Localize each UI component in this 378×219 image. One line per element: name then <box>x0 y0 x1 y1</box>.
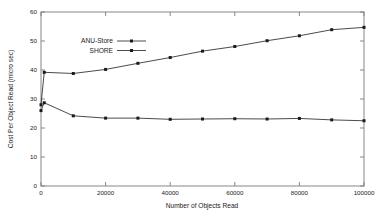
y-tick-label: 60 <box>30 8 37 15</box>
data-point <box>72 114 75 117</box>
data-point <box>233 45 236 48</box>
y-tick-label: 0 <box>34 182 38 189</box>
line-chart-plot: 0102030405060 02000040000600008000010000… <box>0 0 378 219</box>
series-anu-store <box>40 101 366 122</box>
data-point <box>298 117 301 120</box>
data-point <box>298 34 301 37</box>
x-axis-tick-labels: 020000400006000080000100000 <box>39 189 375 196</box>
y-axis-title: Cost Per Object Read (micro sec) <box>7 50 15 149</box>
data-point <box>40 103 43 106</box>
y-tick-label: 30 <box>30 95 37 102</box>
y-tick-label: 40 <box>30 66 37 73</box>
data-point <box>266 39 269 42</box>
data-point <box>43 101 46 104</box>
legend-sample-marker <box>130 40 133 43</box>
legend-label-anu-store: ANU-Store <box>81 37 113 44</box>
data-point <box>43 71 46 74</box>
data-point <box>363 26 366 29</box>
chart-container: 0102030405060 02000040000600008000010000… <box>0 0 378 219</box>
legend-sample-marker <box>130 49 133 52</box>
y-tick-label: 50 <box>30 37 37 44</box>
x-tick-label: 40000 <box>162 189 180 196</box>
x-axis-title: Number of Objects Read <box>166 202 239 210</box>
legend-label-shore: SHORE <box>90 47 114 54</box>
x-tick-label: 60000 <box>226 189 244 196</box>
data-point <box>136 62 139 65</box>
y-tick-label: 10 <box>30 153 37 160</box>
data-point <box>233 117 236 120</box>
data-point <box>72 72 75 75</box>
x-tick-label: 0 <box>39 189 43 196</box>
legend-sample-1 <box>117 49 146 52</box>
data-point <box>201 118 204 121</box>
data-point <box>169 118 172 121</box>
legend-sample-0 <box>117 40 146 43</box>
data-point <box>169 56 172 59</box>
data-point <box>40 109 43 112</box>
data-point <box>104 68 107 71</box>
y-tick-label: 20 <box>30 124 37 131</box>
data-point <box>363 119 366 122</box>
data-point <box>266 118 269 121</box>
data-point <box>330 118 333 121</box>
data-point <box>104 117 107 120</box>
chart-legend: ANU-StoreSHORE <box>81 37 146 54</box>
data-point <box>136 117 139 120</box>
data-point <box>201 50 204 53</box>
y-axis-tick-labels: 0102030405060 <box>30 8 37 189</box>
x-tick-label: 100000 <box>354 189 375 196</box>
x-tick-label: 20000 <box>97 189 115 196</box>
data-point <box>330 28 333 31</box>
x-tick-label: 80000 <box>291 189 309 196</box>
